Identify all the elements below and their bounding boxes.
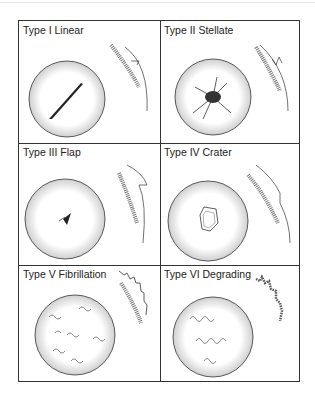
panel-label: Type V Fibrillation (23, 268, 106, 280)
panel-label: Type III Flap (23, 146, 81, 158)
panel-label: Type IV Crater (164, 146, 232, 158)
lesion-classification-grid: Type I Linear Type II Stellate Type III … (18, 20, 300, 382)
panel-type-5: Type V Fibrillation (19, 265, 160, 383)
panel-label: Type II Stellate (164, 24, 233, 36)
panel-type-6: Type VI Degrading (160, 265, 301, 383)
panel-type-4: Type IV Crater (160, 143, 301, 265)
top-divider (0, 2, 315, 3)
panel-type-1: Type I Linear (19, 21, 160, 143)
panel-type-2: Type II Stellate (160, 21, 301, 143)
panel-label: Type VI Degrading (164, 268, 251, 280)
panel-type-3: Type III Flap (19, 143, 160, 265)
panel-label: Type I Linear (23, 24, 84, 36)
